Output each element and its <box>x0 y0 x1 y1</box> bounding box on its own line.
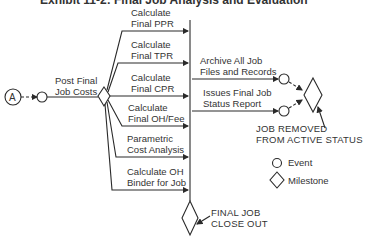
legend-milestone-icon <box>270 172 284 188</box>
task-archive-job-files: Archive All Job Files and Records <box>200 55 277 77</box>
event-circle-icon <box>37 92 47 102</box>
milestone-diamond-icon <box>304 78 322 112</box>
task-calculate-final-oh-fee: Calculate Final OH/Fee <box>128 102 185 124</box>
milestone-job-removed-label: JOB REMOVED FROM ACTIVE STATUS <box>256 123 363 145</box>
task-issue-final-status-report: Issues Final Job Status Report <box>203 87 272 109</box>
start-connector-label: A <box>9 92 16 103</box>
task-post-final-job-costs: Post Final Job Costs <box>55 75 97 97</box>
task-parametric-cost-analysis: Parametric Cost Analysis <box>127 133 184 155</box>
event-circle-icon <box>279 106 289 116</box>
legend-event-icon <box>273 159 282 168</box>
task-calculate-oh-binder: Calculate OH Binder for Job <box>127 166 186 188</box>
task-calculate-final-ppr: Calculate Final PPR <box>131 7 174 29</box>
legend-event-label: Event <box>288 157 312 168</box>
event-circle-icon <box>279 74 289 84</box>
task-calculate-final-cpr: Calculate Final CPR <box>131 72 174 94</box>
milestone-diamond-icon <box>182 201 198 235</box>
milestone-final-close-label: FINAL JOB CLOSE OUT <box>211 207 268 229</box>
legend-milestone-label: Milestone <box>288 175 329 186</box>
task-calculate-final-tpr: Calculate Final TPR <box>131 39 173 61</box>
diagram-title: Exhibit 11-2: Final Job Analysis and Eva… <box>40 0 308 7</box>
flow-diagram: Exhibit 11-2: Final Job Analysis and Eva… <box>0 0 365 237</box>
